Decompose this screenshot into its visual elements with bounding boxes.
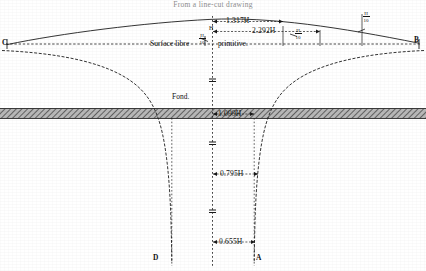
fraction-mid-denominator: 10 [292, 35, 304, 40]
frac-tick-right [358, 29, 365, 32]
ground-band [0, 109, 426, 119]
fraction-left-denominator: 10 [196, 40, 208, 45]
fraction-left-tick: H 10 [196, 33, 208, 45]
point-label-c: C [2, 39, 7, 46]
fraction-mid: H 10 [292, 28, 304, 40]
dim-label-0795H: 0.795H [220, 170, 243, 178]
primitive-label: primitive. [218, 40, 248, 47]
fraction-right: H 10 [360, 11, 372, 23]
dim-1317H-arrow-left [213, 20, 217, 24]
scour-curve-left [2, 51, 172, 263]
figure-canvas: From a line-cut drawing [0, 0, 426, 271]
dim-label-2292H: 2.292H [252, 27, 275, 35]
fraction-left-numerator: H [196, 33, 208, 38]
dim-label-0655H: 0.655H [219, 238, 242, 246]
scour-curve-right-group [254, 51, 424, 263]
point-label-a: A [256, 254, 261, 261]
point-label-d: D [153, 254, 158, 261]
fraction-mid-numerator: H [292, 28, 304, 33]
dim-label-1099H: 1.099H [218, 110, 241, 118]
dim-0655H-arrow-left [213, 240, 217, 244]
scour-curve-right [254, 51, 424, 263]
fraction-right-numerator: H [360, 11, 372, 16]
axis-h-label: H [209, 25, 213, 31]
fraction-right-denominator: 10 [360, 18, 372, 23]
surface-libre-label: Surface libre [150, 40, 189, 47]
point-label-b: B [414, 36, 419, 43]
diagram-vector-layer [0, 0, 426, 271]
extension-lines [172, 14, 362, 266]
dim-1317H-arrow-right [279, 20, 283, 24]
dim-2292H-arrow-left [213, 30, 217, 34]
dim-label-1317H: 1.317H [226, 17, 249, 25]
dim-2292H-arrow-right [316, 30, 320, 34]
fond-label: Fond. [172, 93, 190, 100]
scour-curve-left-group [2, 51, 172, 263]
dim-0795H-arrow-left [213, 172, 217, 176]
ground-hatch-fill [0, 109, 426, 119]
